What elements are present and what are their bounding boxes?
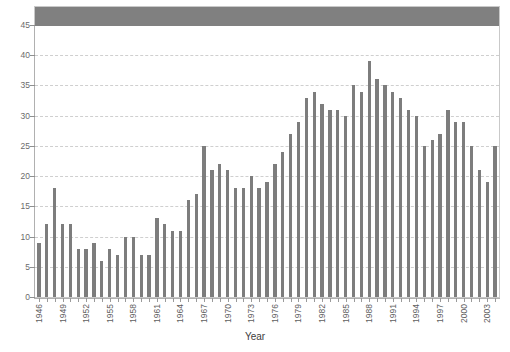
bar [313, 92, 316, 298]
x-axis-tick [243, 298, 244, 302]
bar [210, 170, 213, 297]
y-axis-tick-label: 40 [0, 51, 30, 60]
x-axis-tick-label: 1985 [342, 304, 351, 323]
y-axis-tick-label: 20 [0, 172, 30, 181]
x-axis-tick-label: 1982 [318, 304, 327, 323]
bar [383, 85, 386, 297]
bar [360, 92, 363, 298]
x-axis-tick [354, 298, 355, 302]
x-axis-tick [424, 298, 425, 302]
bar [470, 146, 473, 297]
x-axis-tick [220, 298, 221, 302]
x-axis-tick [283, 298, 284, 302]
bar [344, 116, 347, 297]
x-axis-tick [236, 298, 237, 302]
x-axis-tick-label: 1973 [247, 304, 256, 323]
bar [250, 176, 253, 297]
bar [147, 255, 150, 297]
x-axis-tick [448, 298, 449, 302]
bar [336, 110, 339, 297]
bar [399, 98, 402, 297]
x-axis-tick [306, 298, 307, 302]
x-axis-tick [196, 298, 197, 302]
x-axis-tick-label: 1979 [294, 304, 303, 323]
x-axis-tick-label: 2003 [483, 304, 492, 323]
x-axis-tick [377, 298, 378, 302]
x-axis-tick [141, 298, 142, 302]
x-axis-tick [432, 298, 433, 302]
y-axis-tick-label: 15 [0, 202, 30, 211]
x-axis-tick [259, 298, 260, 302]
x-axis-tick-label: 1970 [224, 304, 233, 323]
bar [352, 85, 355, 297]
x-axis-tick [416, 298, 417, 302]
x-axis-tick [63, 298, 64, 302]
x-axis-tick [409, 298, 410, 302]
x-axis-tick [267, 298, 268, 302]
x-axis-tick-label: 1955 [106, 304, 115, 323]
x-axis-tick [125, 298, 126, 302]
x-axis-tick [314, 298, 315, 302]
x-axis-tick [401, 298, 402, 302]
bar [92, 243, 95, 297]
x-axis-tick [369, 298, 370, 302]
bar [202, 146, 205, 297]
bar [407, 110, 410, 297]
x-axis-tick [464, 298, 465, 302]
x-axis-tick [180, 298, 181, 302]
x-axis-tick [385, 298, 386, 302]
x-axis-tick [487, 298, 488, 302]
bar [77, 249, 80, 297]
bar [45, 224, 48, 297]
bar [462, 122, 465, 297]
bar [53, 188, 56, 297]
bar [438, 134, 441, 297]
x-axis-tick [173, 298, 174, 302]
bar [305, 98, 308, 297]
bar [37, 243, 40, 297]
x-axis-tick [110, 298, 111, 302]
header-band [35, 7, 499, 26]
bar [155, 218, 158, 297]
bar [100, 261, 103, 297]
x-axis-tick [251, 298, 252, 302]
bar [132, 237, 135, 297]
bar [195, 194, 198, 297]
bars-layer [35, 25, 499, 297]
bar [320, 104, 323, 297]
x-axis-tick [440, 298, 441, 302]
bar [391, 92, 394, 298]
bar [69, 224, 72, 297]
y-axis-tick-label: 35 [0, 81, 30, 90]
x-axis-tick [149, 298, 150, 302]
x-axis-tick [165, 298, 166, 302]
x-axis-tick-label: 1988 [365, 304, 374, 323]
x-axis-tick [298, 298, 299, 302]
bar [61, 224, 64, 297]
x-axis-tick [330, 298, 331, 302]
y-axis-tick-label: 25 [0, 142, 30, 151]
bar [84, 249, 87, 297]
bar [493, 146, 496, 297]
x-axis-tick-label: 1997 [436, 304, 445, 323]
bar [265, 182, 268, 297]
bar [108, 249, 111, 297]
x-axis-tick-label: 1994 [412, 304, 421, 323]
x-axis-tick [157, 298, 158, 302]
x-axis-tick [275, 298, 276, 302]
x-axis-tick-label: 1946 [35, 304, 44, 323]
bar [140, 255, 143, 297]
x-axis-tick [479, 298, 480, 302]
bar [226, 170, 229, 297]
bar [187, 200, 190, 297]
bar [478, 170, 481, 297]
x-axis-tick [94, 298, 95, 302]
x-axis-title: Year [0, 331, 510, 342]
bar [486, 182, 489, 297]
x-axis-tick [102, 298, 103, 302]
x-axis-tick [204, 298, 205, 302]
bar-chart-figure: 051015202530354045 194619491952195519581… [0, 0, 510, 352]
x-axis-tick [393, 298, 394, 302]
bar [257, 188, 260, 297]
x-axis-tick [188, 298, 189, 302]
